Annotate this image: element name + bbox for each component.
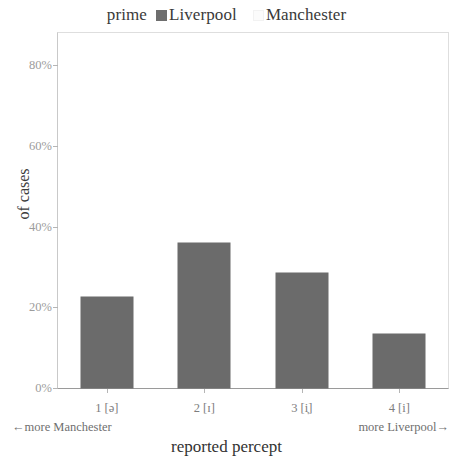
bars-container xyxy=(58,33,448,388)
x-axis-tick-mark xyxy=(302,389,303,393)
y-axis-tick-label: 40% xyxy=(29,219,52,234)
chart-legend: prime Liverpool Manchester xyxy=(0,2,453,28)
x-axis-tick-label: 3 [i̞] xyxy=(291,401,312,416)
bar[interactable] xyxy=(81,297,133,388)
bar[interactable] xyxy=(276,273,328,388)
y-axis-tick-mark xyxy=(53,307,58,308)
y-axis-tick-label: 20% xyxy=(29,300,52,315)
bar-chart: prime Liverpool Manchester of cases 0%20… xyxy=(0,0,453,462)
x-axis-tick-label: 2 [ɪ] xyxy=(194,401,215,416)
legend-label-liverpool: Liverpool xyxy=(169,5,237,25)
y-axis-tick-mark xyxy=(53,388,58,389)
x-axis-tick-mark xyxy=(399,389,400,393)
legend-label-manchester: Manchester xyxy=(266,5,346,25)
y-axis-tick-mark xyxy=(53,146,58,147)
x-axis-tick-label: 1 [ə] xyxy=(95,401,118,416)
left-anchor-annotation: ←more Manchester xyxy=(12,420,112,435)
x-axis-tick-label: 4 [i] xyxy=(389,401,410,416)
legend-swatch-manchester-icon xyxy=(253,10,264,21)
legend-entry-liverpool[interactable]: Liverpool xyxy=(156,5,237,25)
y-axis-ticks: 0%20%40%60%80% xyxy=(0,0,52,462)
x-axis-label: reported percept xyxy=(0,437,453,457)
legend-prime-label: prime xyxy=(107,5,147,25)
y-axis-tick-mark xyxy=(53,227,58,228)
x-axis-tick-mark xyxy=(107,389,108,393)
y-axis-tick-label: 60% xyxy=(29,138,52,153)
y-axis-tick-label: 80% xyxy=(29,58,52,73)
y-axis-tick-label: 0% xyxy=(35,381,52,396)
legend-entry-manchester[interactable]: Manchester xyxy=(253,5,346,25)
x-axis-tick-mark xyxy=(204,389,205,393)
legend-swatch-liverpool-icon xyxy=(156,10,167,21)
bar[interactable] xyxy=(178,243,230,388)
bar[interactable] xyxy=(373,334,425,388)
y-axis-tick-mark xyxy=(53,65,58,66)
right-anchor-annotation: more Liverpool→ xyxy=(358,420,449,435)
